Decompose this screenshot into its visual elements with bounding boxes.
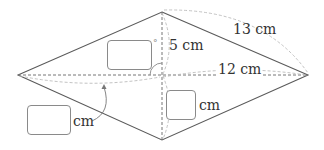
rhombus-diagram: 13 cm 5 cm 12 cm ° cm cm — [0, 0, 324, 150]
lower-half-unit-label: cm — [199, 98, 220, 112]
arrow-head-icon — [102, 84, 107, 89]
half-horizontal-label: 12 cm — [217, 62, 262, 76]
angle-answer-box[interactable] — [107, 40, 152, 70]
pointer-arrow — [92, 87, 106, 121]
left-half-horizontal-arc — [20, 76, 160, 83]
left-half-unit-label: cm — [73, 114, 94, 128]
half-vertical-label: 5 cm — [169, 38, 203, 52]
left-half-diagonal-answer-box[interactable] — [27, 105, 71, 135]
degree-mark: ° — [153, 39, 158, 48]
lower-half-diagonal-answer-box[interactable] — [166, 90, 196, 120]
side-length-label: 13 cm — [233, 22, 276, 36]
